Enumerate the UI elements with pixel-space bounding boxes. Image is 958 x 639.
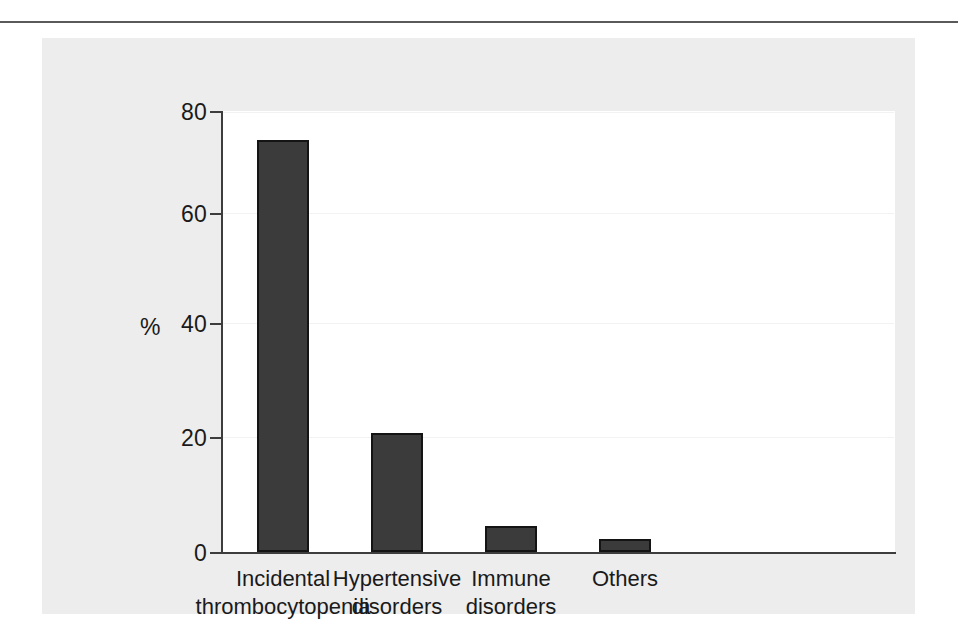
x-category-line-1: Others [530, 565, 720, 593]
bar-incidental-thrombocytopenia [257, 140, 309, 552]
gridline-40 [223, 323, 894, 324]
x-axis-line [221, 552, 896, 554]
y-tick-mark-0 [210, 552, 223, 554]
y-tick-label-0-wrap: 0 [137, 540, 207, 564]
bar-others [599, 539, 651, 552]
y-tick-label-20: 20 [181, 425, 207, 452]
figure-panel: 80 60 40 20 0 % Incidental thrombocytope… [42, 38, 915, 614]
y-tick-label-60-wrap: 60 [137, 201, 207, 225]
gridline-60 [223, 213, 894, 214]
y-tick-label-80: 80 [181, 99, 207, 126]
y-tick-label-20-wrap: 20 [137, 425, 207, 449]
gridline-80 [223, 112, 894, 113]
y-tick-label-0: 0 [194, 540, 207, 567]
y-tick-label-60: 60 [181, 201, 207, 228]
gridline-20 [223, 437, 894, 438]
top-divider-rule [0, 21, 958, 23]
y-tick-mark-40 [210, 323, 223, 325]
y-tick-mark-20 [210, 437, 223, 439]
y-tick-mark-60 [210, 213, 223, 215]
y-tick-label-40: 40 [181, 311, 207, 338]
bar-immune-disorders [485, 526, 537, 552]
plot-area [222, 111, 895, 554]
y-axis-unit-label: % [140, 314, 160, 341]
y-axis-line [221, 111, 223, 554]
x-category-line-2: disorders [416, 593, 606, 621]
x-category-label-others: Others [530, 565, 720, 593]
y-tick-mark-80 [210, 111, 223, 113]
bar-hypertensive-disorders [371, 433, 423, 552]
y-tick-label-80-wrap: 80 [137, 99, 207, 123]
